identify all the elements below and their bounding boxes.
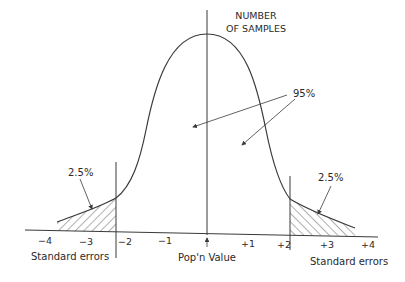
right-tail-label: 2.5% bbox=[318, 173, 343, 183]
central-area-arrow-right bbox=[242, 99, 295, 145]
right-tail-arrow bbox=[318, 186, 331, 214]
normal-distribution-diagram: NUMBER OF SAMPLES 95% 2.5% 2.5% −4 −3 −2… bbox=[0, 0, 405, 282]
tick-minus-2: −2 bbox=[118, 237, 132, 247]
left-standard-errors-label: Standard errors bbox=[31, 252, 109, 262]
left-tail-arrow bbox=[80, 179, 92, 209]
tick-plus-4: +4 bbox=[361, 240, 375, 250]
bell-curve bbox=[57, 34, 355, 228]
tick-plus-1: +1 bbox=[241, 239, 255, 249]
diagram-graphics bbox=[0, 0, 405, 282]
tick-plus-3: +3 bbox=[320, 240, 334, 250]
y-axis-title: NUMBER OF SAMPLES bbox=[215, 9, 297, 35]
y-axis-title-line2: OF SAMPLES bbox=[215, 22, 297, 35]
tick-minus-3: −3 bbox=[79, 237, 93, 247]
population-value-label: Pop'n Value bbox=[178, 253, 236, 263]
y-axis-title-line1: NUMBER bbox=[215, 9, 297, 22]
tick-minus-4: −4 bbox=[38, 236, 52, 246]
central-area-label: 95% bbox=[293, 89, 315, 99]
right-standard-errors-label: Standard errors bbox=[310, 257, 388, 267]
tick-plus-2: +2 bbox=[277, 240, 291, 250]
left-tail-label: 2.5% bbox=[68, 168, 93, 178]
tick-minus-1: −1 bbox=[158, 236, 172, 246]
